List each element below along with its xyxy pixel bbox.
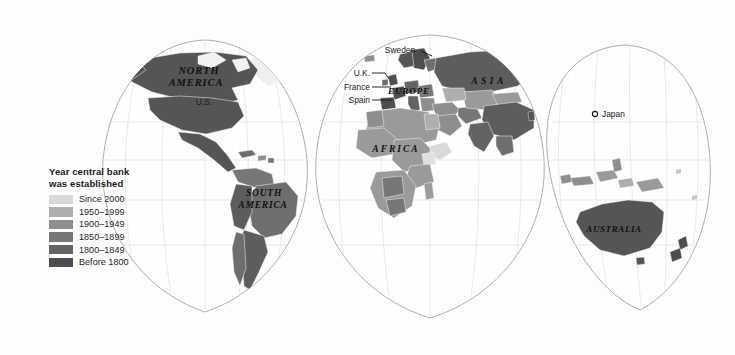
legend-row: Since 2000 bbox=[49, 193, 169, 206]
callout-spain: Spain bbox=[349, 95, 371, 105]
label-north-america: NORTH bbox=[177, 65, 219, 76]
legend-swatch bbox=[49, 207, 73, 217]
legend-label: 1950–1999 bbox=[79, 207, 125, 217]
legend-label: Before 1800 bbox=[79, 257, 129, 267]
legend-label: 1900–1949 bbox=[79, 219, 125, 229]
legend-swatch bbox=[49, 195, 73, 205]
label-australia: AUSTRALIA bbox=[585, 224, 641, 234]
legend-row: Before 1800 bbox=[49, 256, 169, 269]
callout-sweden: Sweden bbox=[385, 45, 416, 55]
callout-uk: U.K. bbox=[354, 68, 370, 78]
label-south-america: SOUTH bbox=[246, 188, 282, 198]
label-north-america: AMERICA bbox=[168, 77, 224, 88]
callout-japan: Japan bbox=[602, 109, 625, 119]
legend-row: 1850–1899 bbox=[49, 231, 169, 244]
legend-label: Since 2000 bbox=[79, 194, 125, 204]
label-asia: ASIA bbox=[470, 76, 506, 86]
callout-us: U.S. bbox=[196, 97, 212, 107]
label-europe: EUROPE bbox=[387, 86, 430, 96]
legend-items: Since 20001950–19991900–19491850–1899180… bbox=[49, 193, 169, 269]
label-south-america: AMERICA bbox=[237, 200, 287, 210]
legend-row: 1950–1999 bbox=[49, 206, 169, 219]
legend-row: 1800–1849 bbox=[49, 243, 169, 256]
legend-swatch bbox=[49, 232, 73, 242]
world-map-figure: NORTH AMERICA SOUTH AMERICA AFRICA EUROP… bbox=[0, 0, 735, 355]
legend-label: 1850–1899 bbox=[79, 232, 125, 242]
legend-swatch bbox=[49, 258, 73, 268]
map-legend: Year central bank was established Since … bbox=[49, 166, 169, 269]
callout-france: France bbox=[344, 82, 370, 92]
legend-title: Year central bank was established bbox=[49, 166, 169, 189]
legend-row: 1900–1949 bbox=[49, 218, 169, 231]
legend-swatch bbox=[49, 220, 73, 230]
legend-label: 1800–1849 bbox=[79, 245, 125, 255]
label-africa: AFRICA bbox=[371, 144, 419, 154]
legend-swatch bbox=[49, 245, 73, 255]
